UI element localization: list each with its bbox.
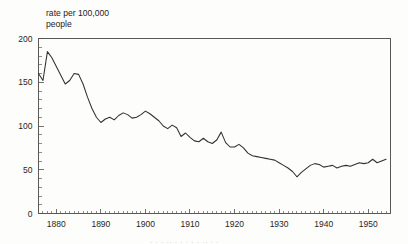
figure-page: rate per 100,000 people 050100150200 188… bbox=[0, 0, 408, 244]
x-axis: 18801890190019101920193019401950 bbox=[39, 209, 391, 229]
line-chart-figure: rate per 100,000 people 050100150200 188… bbox=[0, 0, 408, 244]
y-tick-label: 100 bbox=[18, 121, 32, 131]
chart-title-line2: people bbox=[46, 19, 72, 29]
x-tick-label: 1890 bbox=[91, 219, 110, 229]
plot-frame bbox=[39, 39, 391, 214]
y-tick-label: 50 bbox=[23, 165, 33, 175]
plot-frame-path bbox=[39, 39, 391, 214]
x-tick-label: 1940 bbox=[314, 219, 333, 229]
x-tick-label: 1910 bbox=[181, 219, 200, 229]
y-tick-label: 200 bbox=[18, 34, 32, 44]
y-tick-label: 0 bbox=[28, 209, 33, 219]
x-tick-label: 1950 bbox=[359, 219, 378, 229]
series-line-rate bbox=[39, 52, 387, 177]
x-tick-label: 1920 bbox=[225, 219, 244, 229]
x-tick-label: 1930 bbox=[270, 219, 289, 229]
y-tick-label: 150 bbox=[18, 77, 32, 87]
cut-off-caption: · · · ·· · · · · · ·· · · bbox=[150, 239, 408, 244]
chart-title-line1: rate per 100,000 bbox=[46, 8, 109, 18]
chart-svg: rate per 100,000 people 050100150200 188… bbox=[0, 0, 408, 244]
x-tick-label: 1880 bbox=[47, 219, 66, 229]
x-tick-label: 1900 bbox=[136, 219, 155, 229]
series-group bbox=[39, 52, 387, 177]
y-axis: 050100150200 bbox=[18, 34, 43, 219]
